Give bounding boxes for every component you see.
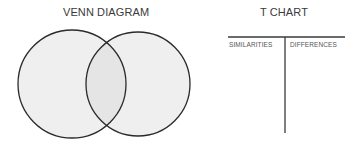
t-chart-column-similarities: SIMILARITIES	[229, 41, 272, 48]
t-chart-column-differences: DIFFERENCES	[290, 41, 337, 48]
venn-diagram	[18, 30, 190, 138]
t-chart	[228, 37, 345, 133]
diagram-canvas	[0, 0, 360, 150]
